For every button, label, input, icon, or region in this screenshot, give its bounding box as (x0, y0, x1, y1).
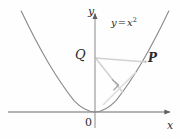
point-marker-p (145, 61, 147, 63)
figure-canvas: y x 0 Q P y=x2 (0, 0, 180, 139)
chord-q-to-p (96, 58, 147, 62)
normal-segment-from-q (96, 58, 123, 92)
point-label-p: P (148, 52, 157, 64)
tangent-direction-tick (104, 73, 136, 105)
curve-equation-y: y (111, 17, 117, 28)
point-marker-q (95, 57, 97, 59)
origin-label: 0 (85, 117, 92, 128)
curve-equation-exponent: 2 (133, 16, 137, 24)
curve-equation-equals: = (117, 17, 127, 28)
y-axis-label: y (88, 6, 94, 17)
x-axis-label: x (167, 120, 173, 131)
point-label-q: Q (75, 48, 86, 61)
curve-equation-label: y=x2 (111, 18, 137, 28)
